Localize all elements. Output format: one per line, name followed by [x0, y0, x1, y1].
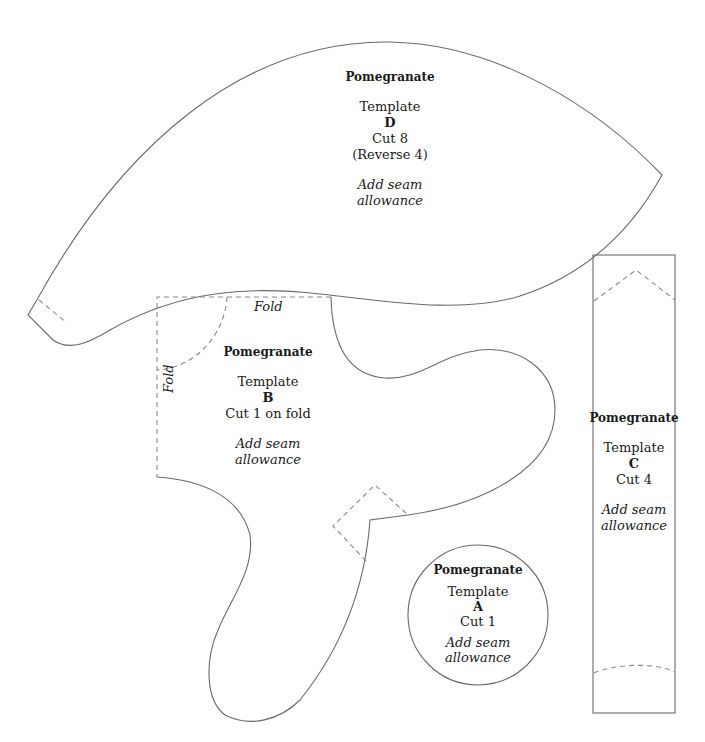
template-d-title: Pomegranate [345, 69, 434, 85]
template-c-template-label: Template [589, 440, 678, 456]
template-b-letter: B [223, 390, 312, 406]
template-b-label: Pomegranate Template B Cut 1 on fold Add… [223, 344, 312, 468]
template-a-label: Pomegranate Template A Cut 1 Add seam al… [433, 563, 522, 665]
template-d-cut: Cut 8 [345, 131, 434, 147]
template-b-seam-line2: allowance [223, 452, 312, 468]
template-a-template-label: Template [433, 584, 522, 599]
template-a-title: Pomegranate [433, 563, 522, 578]
template-d-seam-line2: allowance [345, 193, 434, 209]
template-b-seam-line1: Add seam [223, 436, 312, 452]
template-d-seam-line1: Add seam [345, 177, 434, 193]
template-d-reverse-note: (Reverse 4) [345, 147, 434, 163]
template-d-template-label: Template [345, 99, 434, 115]
template-c-label: Pomegranate Template C Cut 4 Add seam al… [589, 410, 678, 534]
template-c-top-chevron [594, 270, 675, 301]
template-b-template-label: Template [223, 374, 312, 390]
template-a-letter: A [433, 599, 522, 614]
template-d-label: Pomegranate Template D Cut 8 (Reverse 4)… [345, 69, 434, 209]
template-a-seam-line2: allowance [433, 650, 522, 665]
template-c-cut: Cut 4 [589, 472, 678, 488]
template-c-seam-line2: allowance [589, 518, 678, 534]
template-c-letter: C [589, 456, 678, 472]
template-c-title: Pomegranate [589, 410, 678, 426]
template-c-bottom-arc [594, 665, 675, 673]
template-a-seam-line1: Add seam [433, 635, 522, 650]
template-b-title: Pomegranate [223, 344, 312, 360]
template-c-seam-line1: Add seam [589, 502, 678, 518]
template-b-quarter-arc [157, 297, 227, 370]
template-d-seam-fold [39, 300, 67, 323]
template-b-cut: Cut 1 on fold [223, 406, 312, 422]
template-b-fold-top-label: Fold [254, 299, 283, 314]
template-b-fold-left-label: Fold [161, 364, 176, 393]
template-b-notch [333, 485, 408, 561]
template-d-letter: D [345, 115, 434, 131]
template-a-cut: Cut 1 [433, 614, 522, 629]
